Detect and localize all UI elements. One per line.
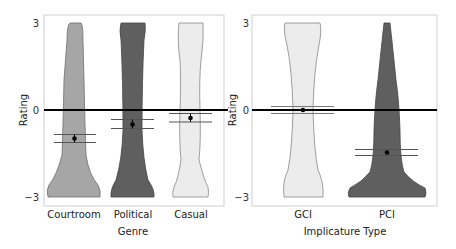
mean-point-pci [385, 150, 390, 155]
mean-point-gci [301, 108, 306, 113]
right-panel: 3 0 −3 Rating GCI PCI Implicature Type [227, 15, 437, 237]
y-tick-0: 0 [33, 105, 39, 116]
chart-figure: 3 0 −3 Rating Courtroom Political Casual… [0, 0, 456, 249]
y-axis-label-right: Rating [227, 94, 238, 126]
x-axis-label: Genre [118, 226, 148, 237]
y-tick-3: 3 [33, 18, 39, 29]
x-axis-label-right: Implicature Type [304, 226, 387, 237]
x-tick-gci: GCI [294, 209, 312, 220]
y-axis-label: Rating [18, 94, 29, 126]
mean-point-casual [188, 116, 193, 121]
x-tick-pci: PCI [379, 209, 395, 220]
x-tick-casual: Casual [174, 209, 208, 220]
y-tick-3-right: 3 [243, 18, 249, 29]
x-tick-courtroom: Courtroom [47, 209, 100, 220]
mean-point-courtroom [72, 136, 77, 141]
y-tick-0-right: 0 [243, 105, 249, 116]
mean-point-political [130, 122, 135, 127]
left-panel: 3 0 −3 Rating Courtroom Political Casual… [18, 15, 228, 237]
y-tick-neg3: −3 [24, 192, 39, 203]
y-tick-neg3-right: −3 [234, 192, 249, 203]
x-tick-political: Political [114, 209, 152, 220]
